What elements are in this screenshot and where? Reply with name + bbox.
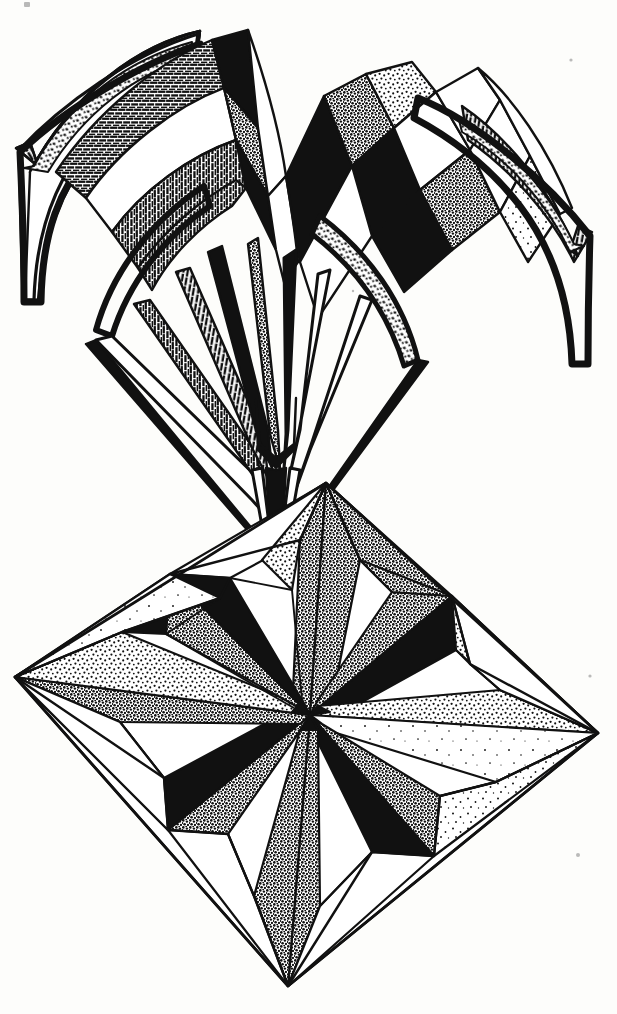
ink-drawing-canvas	[0, 0, 617, 1014]
artwork-plate	[0, 0, 617, 1014]
